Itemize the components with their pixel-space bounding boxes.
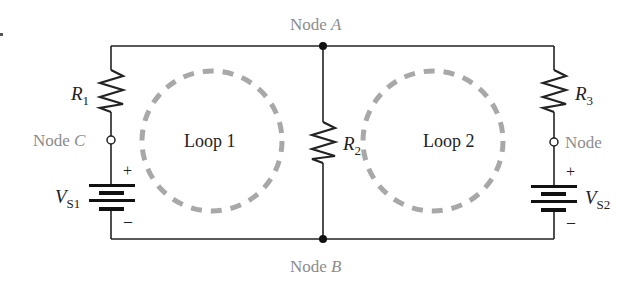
stray-dot [0, 33, 3, 36]
node-b-label: Node B [290, 257, 342, 276]
node-b-dot [319, 235, 327, 243]
r2-label: R2 [342, 133, 361, 158]
battery-vs1 [89, 184, 135, 211]
node-a-label: Node A [290, 15, 342, 34]
battery-vs2 [531, 185, 577, 212]
loop-2-label: Loop 2 [423, 131, 475, 151]
circuit-diagram: Node A Node B Node C Node Loop 1 Loop 2 … [0, 0, 637, 283]
node-a-dot [319, 42, 327, 50]
vs1-plus-sign: + [123, 162, 132, 179]
node-c-terminal [107, 136, 115, 144]
resistor-r3 [543, 70, 566, 112]
resistor-r2 [312, 122, 335, 163]
resistor-r1 [100, 70, 123, 112]
node-d-terminal [550, 138, 558, 146]
vs2-plus-sign: + [566, 163, 575, 180]
r3-label: R3 [574, 83, 593, 108]
node-c-label: Node C [33, 131, 86, 150]
r1-label: R1 [70, 83, 89, 108]
node-d-label: Node [565, 133, 602, 152]
vs1-minus-sign: – [123, 212, 133, 229]
vs2-label: VS2 [585, 187, 610, 212]
vs1-label: VS1 [55, 186, 80, 211]
loop-1-label: Loop 1 [184, 131, 236, 151]
vs2-minus-sign: – [566, 213, 576, 230]
